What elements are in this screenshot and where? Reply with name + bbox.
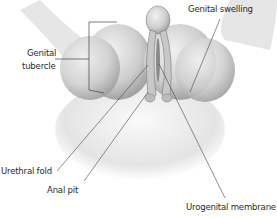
anatomy-diagram: Genital swelling Genital tubercle Urethr… (0, 0, 277, 218)
illustration (0, 0, 277, 218)
label-genital-swelling: Genital swelling (188, 3, 253, 14)
tubercle (146, 6, 170, 34)
label-genital-tubercle-line2: tubercle (22, 60, 56, 71)
label-urethral-fold: Urethral fold (1, 165, 52, 176)
label-anal-pit: Anal pit (47, 184, 78, 195)
label-urogenital-membrane: Urogenital membrane (186, 201, 276, 212)
label-genital-tubercle-line1: Genital (27, 47, 56, 58)
